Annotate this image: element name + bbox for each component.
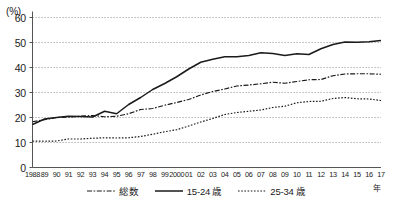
x-axis-tick-label: 12	[317, 170, 325, 179]
x-axis-tick-label: 97	[137, 170, 145, 179]
x-axis-tick-label: 05	[233, 170, 241, 179]
x-axis-tick-label: 95	[113, 170, 121, 179]
x-axis-tick-label: 04	[221, 170, 229, 179]
x-axis-tick-label: 91	[65, 170, 73, 179]
x-axis-tick-label: 08	[269, 170, 277, 179]
x-axis-tick-label: 2000	[169, 170, 184, 179]
x-axis-tick-label: 94	[101, 170, 109, 179]
legend-swatch-dash-dot	[87, 187, 115, 195]
x-axis-tick-label: 14	[341, 170, 349, 179]
x-axis-tick-label: 13	[329, 170, 337, 179]
x-axis-tick-label: 98	[149, 170, 157, 179]
x-axis-tick-label: 89	[41, 170, 49, 179]
x-axis-tick-label: 02	[197, 170, 205, 179]
x-axis-tick-label: 99	[161, 170, 169, 179]
x-axis-tick-label: 17	[377, 170, 385, 179]
x-axis-tick-label: 09	[281, 170, 289, 179]
chart-container: (%) 0102030405060 1988899091929394959697…	[0, 0, 393, 204]
x-axis-tick-label: 03	[209, 170, 217, 179]
legend-label: 総数	[119, 184, 139, 198]
chart-legend: 総数15-24 歳25-34 歳	[0, 184, 393, 198]
x-axis-tick-label: 15	[353, 170, 361, 179]
legend-swatch-dotted	[238, 187, 266, 195]
legend-item: 15-24 歳	[155, 184, 223, 198]
legend-item: 総数	[87, 184, 139, 198]
x-axis-tick-label: 1988	[25, 170, 40, 179]
series-line-2	[33, 98, 382, 142]
x-axis-tick-label: 16	[365, 170, 373, 179]
x-axis-tick-label: 92	[77, 170, 85, 179]
x-axis-tick-label: 11	[305, 170, 312, 179]
x-axis-tick-label: 93	[89, 170, 97, 179]
legend-label: 25-34 歳	[270, 184, 306, 198]
x-axis-tick-label: 06	[245, 170, 253, 179]
x-axis-tick-label: 01	[185, 170, 193, 179]
legend-item: 25-34 歳	[238, 184, 306, 198]
legend-swatch-solid	[155, 187, 183, 195]
x-axis-tick-label: 07	[257, 170, 265, 179]
legend-label: 15-24 歳	[187, 184, 223, 198]
x-axis-tick-label: 10	[293, 170, 301, 179]
series-line-0	[33, 74, 382, 122]
x-axis-tick-label: 90	[53, 170, 61, 179]
series-line-1	[33, 41, 382, 125]
x-axis-tick-label: 96	[125, 170, 133, 179]
